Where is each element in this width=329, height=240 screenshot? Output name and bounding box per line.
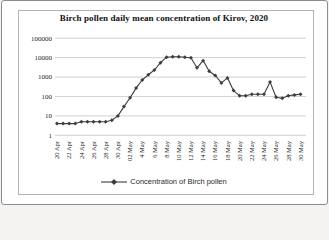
data-point-marker	[268, 80, 272, 84]
x-tick-label: 28 May	[285, 140, 292, 161]
x-tick-label: 4 May	[138, 140, 145, 158]
x-tick-label: 26 May	[272, 140, 279, 161]
x-tick-label: 24 May	[260, 140, 267, 161]
data-point-marker	[250, 92, 254, 96]
data-point-marker	[280, 96, 284, 100]
x-tick-label: 10 May	[175, 140, 182, 161]
x-tick-label: 28 Apr	[102, 140, 109, 159]
data-point-marker	[299, 92, 303, 96]
y-tick-label: 100	[42, 93, 53, 101]
data-point-marker	[85, 120, 89, 124]
data-point-marker	[183, 55, 187, 59]
x-tick-label: 24 Apr	[78, 140, 85, 159]
x-tick-label: 30 May	[297, 140, 304, 161]
series-line	[57, 57, 301, 124]
data-point-marker	[177, 55, 181, 59]
y-tick-label: 10000	[35, 54, 53, 62]
x-tick-label: 22 May	[248, 140, 255, 161]
data-point-marker	[79, 120, 83, 124]
data-point-marker	[98, 120, 102, 124]
data-point-marker	[92, 120, 96, 124]
data-point-marker	[256, 92, 260, 96]
x-tick-label: 30 Apr	[114, 140, 121, 159]
y-tick-label: 1000	[38, 73, 53, 81]
data-point-marker	[286, 94, 290, 98]
data-point-marker	[61, 122, 65, 126]
chart-legend: Concentration of Birch pollen	[16, 177, 312, 186]
x-tick-label: 02 May	[126, 140, 133, 161]
data-point-marker	[55, 122, 59, 126]
data-point-marker	[67, 122, 71, 126]
data-point-marker	[262, 92, 266, 96]
x-tick-label: 8 May	[163, 140, 170, 158]
x-tick-label: 22 Apr	[65, 140, 72, 159]
x-tick-label: 12 May	[187, 140, 194, 161]
legend-marker-icon	[101, 178, 127, 186]
y-tick-label: 100000	[31, 35, 53, 43]
data-point-marker	[104, 120, 108, 124]
x-tick-label: 20 Apr	[53, 140, 60, 159]
x-tick-label: 20 May	[236, 140, 243, 161]
x-tick-label: 6 May	[151, 140, 158, 158]
data-point-marker	[73, 122, 77, 126]
x-tick-label: 26 Apr	[90, 140, 97, 159]
x-tick-label: 18 May	[224, 140, 231, 161]
data-point-marker	[171, 55, 175, 59]
data-point-marker	[274, 95, 278, 99]
x-tick-label: 14 May	[199, 140, 206, 161]
legend-series-label: Concentration of Birch pollen	[130, 177, 226, 186]
x-tick-label: 16 May	[211, 140, 218, 161]
y-tick-label: 10	[45, 112, 53, 120]
data-point-marker	[244, 94, 248, 98]
y-tick-label: 1	[49, 132, 53, 140]
